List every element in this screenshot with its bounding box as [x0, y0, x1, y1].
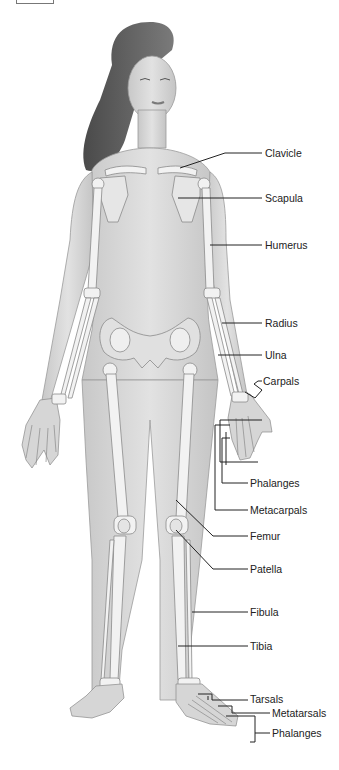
label-clavicle: Clavicle — [265, 147, 302, 159]
left-hand — [22, 398, 60, 468]
label-femur: Femur — [250, 530, 280, 542]
label-fibula: Fibula — [250, 606, 279, 618]
label-patella: Patella — [250, 563, 282, 575]
label-ulna: Ulna — [265, 349, 287, 361]
label-phalanges-foot: Phalanges — [272, 727, 322, 739]
label-scapula: Scapula — [265, 192, 303, 204]
label-metacarpals: Metacarpals — [250, 504, 307, 516]
label-tibia: Tibia — [250, 640, 272, 652]
label-tarsals: Tarsals — [250, 693, 283, 705]
feet — [70, 684, 238, 726]
right-hand — [228, 394, 272, 460]
label-carpals: Carpals — [263, 375, 299, 387]
label-humerus: Humerus — [265, 239, 308, 251]
label-phalanges-hand: Phalanges — [250, 477, 300, 489]
label-metatarsals: Metatarsals — [272, 707, 326, 719]
label-radius: Radius — [265, 317, 298, 329]
